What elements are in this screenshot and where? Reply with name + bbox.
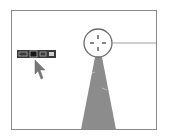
toolbar: [17, 50, 56, 58]
viewport-frame: [12, 11, 157, 130]
toolbar-button-end[interactable]: [49, 52, 54, 56]
crosshair-target-circle[interactable]: [84, 29, 112, 57]
diagram-canvas: [0, 0, 169, 138]
toolbar-button-selected[interactable]: [30, 51, 37, 57]
